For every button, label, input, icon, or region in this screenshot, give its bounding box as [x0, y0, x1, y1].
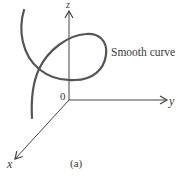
diagram-canvas [0, 0, 188, 183]
x-axis-label: x [7, 158, 12, 170]
diagram-smooth-curve-3d: z y x 0 Smooth curve (a) [0, 0, 188, 183]
origin-label: 0 [60, 91, 66, 102]
x-axis [15, 100, 69, 159]
y-axis-label: y [169, 95, 174, 107]
z-axis-label: z [66, 0, 70, 10]
curve-annotation: Smooth curve [111, 47, 175, 59]
figure-caption: (a) [70, 158, 82, 169]
